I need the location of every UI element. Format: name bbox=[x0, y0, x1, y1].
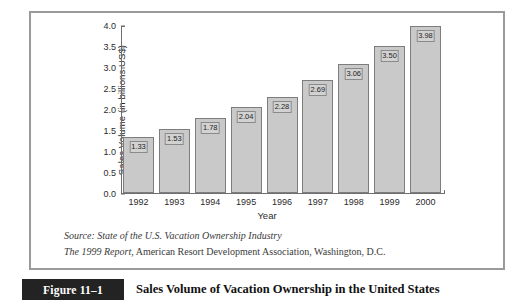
bar-value-label: 3.98 bbox=[416, 30, 435, 42]
bar-value-label: 3.50 bbox=[380, 50, 399, 62]
figure-panel: Sales Volume (in billions US$) 4.03.53.0… bbox=[29, 11, 505, 270]
x-axis-line bbox=[121, 193, 445, 194]
bar-slot: 1.78 bbox=[195, 26, 226, 193]
bar-value-label: 2.28 bbox=[273, 101, 292, 113]
y-axis-tick-label: 4.0 bbox=[103, 21, 116, 31]
source-note-line-1: Source: State of the U.S. Vacation Owner… bbox=[64, 228, 489, 244]
y-axis-tick-label: 1.0 bbox=[103, 147, 116, 157]
bar[interactable]: 1.78 bbox=[195, 118, 226, 193]
bar[interactable]: 3.50 bbox=[374, 46, 405, 193]
figure-root: Sales Volume (in billions US$) 4.03.53.0… bbox=[0, 0, 532, 307]
y-axis-tick-label: 2.5 bbox=[103, 84, 116, 94]
x-axis-tick-label: 1998 bbox=[338, 197, 369, 207]
bar-slot: 1.33 bbox=[123, 26, 154, 193]
bar-slot: 3.98 bbox=[410, 26, 441, 193]
bar-value-label: 1.53 bbox=[165, 133, 184, 145]
bar-slot: 3.50 bbox=[374, 26, 405, 193]
figure-number-tag: Figure 11–1 bbox=[22, 279, 124, 300]
figure-caption-row: Figure 11–1 Sales Volume of Vacation Own… bbox=[22, 279, 522, 300]
bar-value-label: 2.69 bbox=[309, 84, 328, 96]
x-axis-tick-label: 1995 bbox=[231, 197, 262, 207]
bar[interactable]: 2.04 bbox=[231, 107, 262, 193]
source-note-line-2: The 1999 Report, American Resort Develop… bbox=[64, 244, 489, 260]
figure-caption-title: Sales Volume of Vacation Ownership in th… bbox=[124, 279, 440, 300]
x-axis-title: Year bbox=[93, 210, 441, 221]
bar[interactable]: 1.53 bbox=[159, 129, 190, 193]
bar[interactable]: 1.33 bbox=[123, 137, 154, 193]
source-report-name: The 1999 Report bbox=[64, 246, 131, 257]
bar-series: 1.331.531.782.042.282.693.063.503.98 bbox=[123, 26, 441, 193]
y-axis-line bbox=[121, 26, 122, 194]
x-axis-tick-label: 1992 bbox=[123, 197, 154, 207]
x-axis-tick-label: 1999 bbox=[374, 197, 405, 207]
bar-slot: 2.28 bbox=[267, 26, 298, 193]
bar-slot: 2.04 bbox=[231, 26, 262, 193]
y-axis-ticks: 4.03.53.02.52.01.51.00.50.0 bbox=[93, 26, 121, 194]
chart-plot-area: Sales Volume (in billions US$) 4.03.53.0… bbox=[93, 26, 441, 194]
bar-slot: 1.53 bbox=[159, 26, 190, 193]
y-axis-tick-label: 0.0 bbox=[103, 189, 116, 199]
x-axis-tick-labels-inner: 199219931994199519961997199819992000 bbox=[123, 197, 441, 207]
y-axis-tick-label: 3.5 bbox=[103, 42, 116, 52]
source-title: State of the U.S. Vacation Ownership Ind… bbox=[97, 230, 281, 241]
x-axis-tick-label: 1994 bbox=[195, 197, 226, 207]
bar-value-label: 3.06 bbox=[344, 68, 363, 80]
source-note: Source: State of the U.S. Vacation Owner… bbox=[64, 228, 489, 260]
bar[interactable]: 3.06 bbox=[338, 64, 369, 193]
y-axis-tick-label: 3.0 bbox=[103, 63, 116, 73]
source-label: Source: bbox=[64, 230, 95, 241]
y-axis-tick-label: 2.0 bbox=[103, 105, 116, 115]
x-axis-tick-label: 1997 bbox=[302, 197, 333, 207]
bar-value-label: 1.33 bbox=[129, 141, 148, 153]
bar-slot: 3.06 bbox=[338, 26, 369, 193]
bar-value-label: 2.04 bbox=[237, 111, 256, 123]
source-publisher: , American Resort Development Associatio… bbox=[131, 246, 385, 257]
bar[interactable]: 3.98 bbox=[410, 26, 441, 193]
x-axis-tick-label: 2000 bbox=[410, 197, 441, 207]
bar-value-label: 1.78 bbox=[201, 122, 220, 134]
y-axis-tick-label: 1.5 bbox=[103, 126, 116, 136]
bar-slot: 2.69 bbox=[302, 26, 333, 193]
x-axis-tick-label: 1996 bbox=[267, 197, 298, 207]
bar[interactable]: 2.28 bbox=[267, 97, 298, 193]
y-axis-tick-label: 0.5 bbox=[103, 168, 116, 178]
x-axis-tick-label: 1993 bbox=[159, 197, 190, 207]
bar[interactable]: 2.69 bbox=[302, 80, 333, 193]
